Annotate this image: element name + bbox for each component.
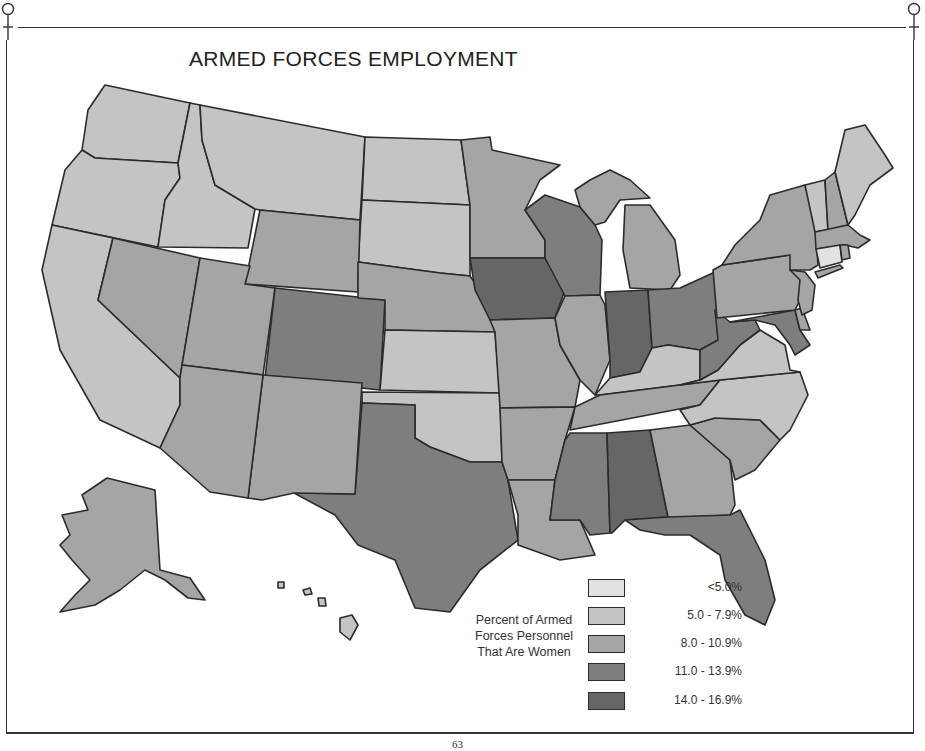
legend-caption-line: Percent of Armed [468, 612, 580, 628]
state-nd[interactable] [362, 137, 470, 205]
legend-swatch [588, 663, 625, 681]
state-nm[interactable] [248, 375, 362, 500]
legend-swatch [588, 579, 625, 597]
legend-caption: Percent of Armed Forces Personnel That A… [468, 612, 580, 660]
legend-item: 8.0 - 10.9% [588, 635, 808, 657]
state-me[interactable] [835, 125, 893, 225]
legend-item: 14.0 - 16.9% [588, 692, 808, 714]
state-co[interactable] [265, 288, 385, 390]
state-ct[interactable] [816, 245, 842, 268]
legend-swatch [588, 607, 625, 625]
legend-label: <5.0% [652, 580, 742, 594]
legend-item: 5.0 - 7.9% [588, 607, 808, 629]
state-hi[interactable] [278, 582, 358, 640]
states-layer [42, 85, 893, 640]
page-number: 63 [452, 738, 463, 750]
legend-label: 5.0 - 7.9% [652, 608, 742, 622]
state-ri[interactable] [840, 245, 850, 260]
legend-caption-line: Forces Personnel [468, 628, 580, 644]
state-ks[interactable] [380, 330, 500, 393]
legend-label: 8.0 - 10.9% [652, 636, 742, 650]
legend-caption-line: That Are Women [468, 644, 580, 660]
legend-swatch [588, 692, 625, 710]
state-wa[interactable] [82, 85, 190, 163]
legend-item: <5.0% [588, 579, 808, 601]
legend-label: 14.0 - 16.9% [652, 693, 742, 707]
state-wy[interactable] [245, 210, 360, 292]
state-ny[interactable] [722, 185, 818, 270]
legend-label: 11.0 - 13.9% [652, 664, 742, 678]
state-ak[interactable] [60, 478, 205, 612]
state-mi[interactable] [623, 205, 680, 290]
legend-item: 11.0 - 13.9% [588, 663, 808, 685]
legend-swatch [588, 635, 625, 653]
